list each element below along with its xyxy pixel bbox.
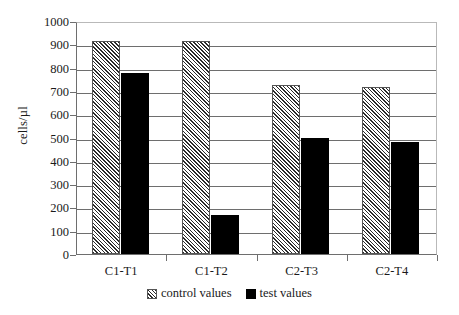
y-tick-label: 200 [23, 202, 69, 215]
x-tick-label-c2-t3: C2-T3 [257, 264, 347, 279]
x-tick-label-c1-t2: C1-T2 [166, 264, 256, 279]
x-tick-label-c2-t4: C2-T4 [347, 264, 437, 279]
y-tick-label: 500 [23, 132, 69, 145]
x-tick-mark [347, 255, 348, 261]
x-tick-mark [166, 255, 167, 261]
gridline [77, 70, 436, 71]
legend-entry-test: test values [246, 286, 312, 301]
legend-label: control values [161, 286, 231, 301]
y-tick-label: 700 [23, 86, 69, 99]
bar-c1-t1-control [92, 41, 120, 254]
bar-c2-t4-control [362, 87, 390, 254]
bar-c1-t2-test [211, 215, 239, 254]
y-tick-label: 800 [23, 62, 69, 75]
y-tick-label: 300 [23, 179, 69, 192]
y-tick-label: 0 [23, 249, 69, 262]
y-tick-label: 1000 [23, 16, 69, 29]
x-tick-mark [437, 255, 438, 261]
y-tick-label: 900 [23, 39, 69, 52]
plot-area [76, 22, 437, 255]
x-tick-mark [257, 255, 258, 261]
hatched-swatch-icon [147, 289, 157, 299]
legend-label: test values [260, 286, 312, 301]
y-tick-mark [70, 255, 76, 256]
y-tick-label: 400 [23, 156, 69, 169]
legend: control valuestest values [0, 286, 459, 301]
x-tick-label-c1-t1: C1-T1 [76, 264, 166, 279]
solid-black-swatch-icon [246, 289, 256, 299]
gridline [77, 46, 436, 47]
bar-chart: cells/µl 0100200300400500600700800900100… [0, 0, 459, 315]
bar-c2-t3-control [272, 85, 300, 254]
y-tick-label: 600 [23, 109, 69, 122]
bar-c1-t2-control [182, 41, 210, 254]
bar-c2-t4-test [391, 142, 419, 254]
legend-entry-control: control values [147, 286, 231, 301]
bar-c2-t3-test [301, 138, 329, 254]
y-tick-label: 100 [23, 225, 69, 238]
bar-c1-t1-test [121, 73, 149, 254]
